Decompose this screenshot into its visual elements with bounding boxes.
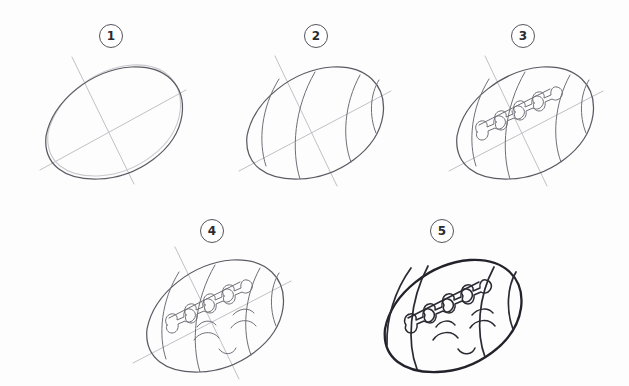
laces-group — [405, 280, 492, 333]
stripe-3 — [346, 75, 360, 162]
laces-group — [476, 87, 563, 140]
stripe-band-left-inner — [411, 266, 428, 369]
ball-outline-sketch — [247, 67, 384, 179]
eyebrow-right — [472, 309, 493, 315]
stripe-1 — [262, 79, 279, 166]
short-axis-guide — [72, 57, 134, 184]
step-badge-2: 2 — [304, 24, 328, 48]
eye-left-closed — [433, 333, 458, 340]
step-4-artwork — [123, 245, 319, 385]
stripe-band-left-outer — [387, 268, 411, 345]
step-panel-4: 4 — [105, 195, 320, 386]
long-axis-guide — [40, 90, 186, 170]
step-badge-4: 4 — [200, 219, 224, 243]
step-number-label: 2 — [312, 30, 320, 42]
eye-right-closed — [470, 321, 495, 328]
step-5-artwork — [361, 245, 561, 385]
ball-outline-ghost — [48, 65, 181, 176]
center-seam — [271, 273, 279, 326]
center-seam — [581, 80, 589, 133]
step-number-label: 4 — [208, 225, 216, 237]
step-panel-3: 3 — [412, 0, 629, 195]
laces-group — [166, 280, 253, 333]
eye-right-closed — [231, 321, 256, 328]
smile-mouth — [458, 348, 475, 354]
short-axis-guide — [275, 56, 337, 186]
stripe-2 — [505, 72, 525, 179]
step-1-artwork — [24, 46, 209, 191]
step-badge-5: 5 — [430, 219, 454, 243]
stripe-2 — [195, 265, 215, 372]
step-badge-3: 3 — [511, 24, 535, 48]
step-panel-5: 5 — [335, 195, 565, 386]
step-panel-2: 2 — [205, 0, 415, 195]
eye-left-closed — [194, 333, 219, 340]
smile-mouth — [219, 348, 236, 354]
drawing-tutorial-sheet: 1 2 — [0, 0, 629, 386]
stripe-2 — [295, 72, 315, 179]
eyebrow-left — [436, 321, 455, 327]
step-3-artwork — [435, 46, 627, 191]
step-number-label: 1 — [107, 30, 115, 42]
center-seam — [371, 80, 379, 133]
face-group — [194, 309, 256, 354]
step-2-artwork — [225, 46, 415, 191]
stripe-3 — [556, 75, 570, 162]
step-badge-1: 1 — [99, 24, 123, 48]
ball-outline-sketch — [46, 67, 183, 179]
step-panel-1: 1 — [0, 0, 210, 195]
step-number-label: 5 — [438, 225, 446, 237]
face-group — [433, 309, 495, 354]
stripe-band-right-outer — [508, 272, 516, 329]
step-number-label: 3 — [519, 30, 527, 42]
